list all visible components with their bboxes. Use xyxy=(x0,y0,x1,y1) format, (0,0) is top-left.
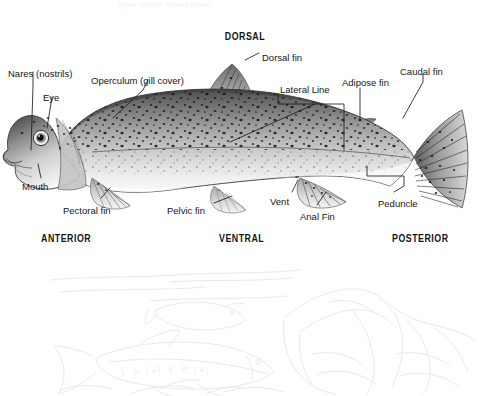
eye-highlight xyxy=(38,135,40,137)
nares-marking xyxy=(21,132,24,134)
trout-body xyxy=(58,88,418,200)
pelvic-fin-art xyxy=(211,186,246,213)
part-label-pectoral-fin: Pectoral fin xyxy=(63,205,111,216)
part-label-eye: Eye xyxy=(43,92,59,103)
trout-head xyxy=(3,116,86,191)
part-label-adipose-fin: Adipose fin xyxy=(342,77,389,88)
anal-fin-art xyxy=(297,178,346,208)
orientation-label-anterior: ANTERIOR xyxy=(41,233,91,245)
part-label-lateral-line: Lateral Line xyxy=(280,84,330,95)
orientation-label-ventral: VENTRAL xyxy=(219,233,264,245)
part-label-anal-fin: Anal Fin xyxy=(300,211,335,222)
part-label-mouth: Mouth xyxy=(22,181,48,192)
part-label-dorsal-fin: Dorsal fin xyxy=(262,52,302,63)
pencil-sketch-art xyxy=(0,258,478,396)
part-label-caudal-fin: Caudal fin xyxy=(400,66,443,77)
part-label-operculum: Operculum (gill cover) xyxy=(91,75,184,86)
part-label-peduncle: Peduncle xyxy=(378,198,418,209)
eye-pupil xyxy=(37,134,43,140)
part-label-pelvic-fin: Pelvic fin xyxy=(167,205,205,216)
pencil-sketch-panel xyxy=(0,258,478,396)
anatomy-figure: figure caption clipped above xyxy=(0,0,478,396)
part-label-vent: Vent xyxy=(270,196,289,207)
orientation-label-dorsal: DORSAL xyxy=(225,31,265,42)
orientation-label-posterior: POSTERIOR xyxy=(392,233,449,245)
vent-marking xyxy=(295,176,299,178)
part-label-nares: Nares (nostrils) xyxy=(8,68,72,79)
caudal-fin-art xyxy=(414,110,468,208)
